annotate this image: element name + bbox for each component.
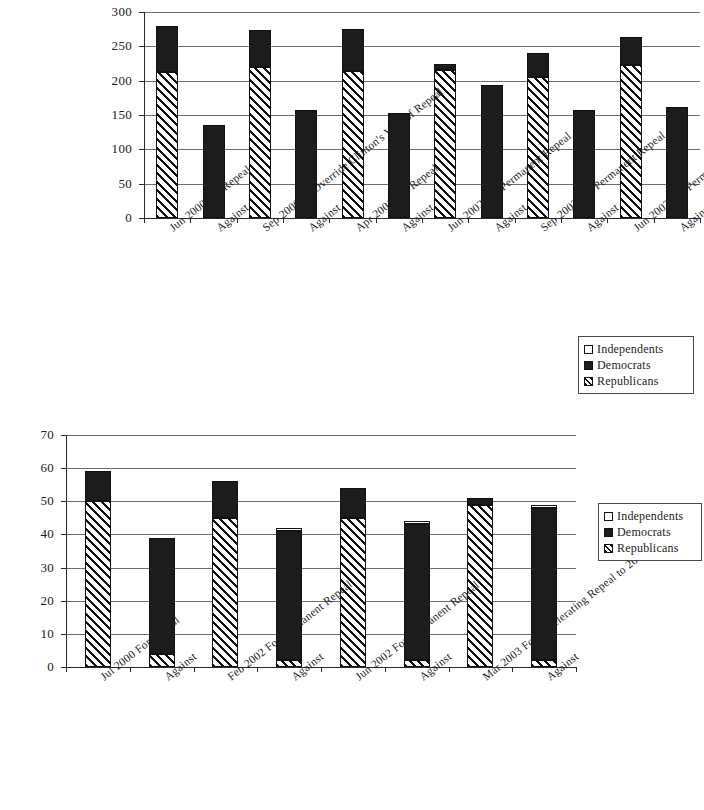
y-axis-line: [144, 12, 145, 218]
y-tick-label: 0: [98, 211, 132, 224]
x-tick-mark: [321, 667, 322, 672]
x-tick-mark: [66, 667, 67, 672]
y-tick-label: 60: [20, 461, 54, 474]
bar-segment-democrats: [249, 30, 271, 67]
bar-segment-republicans: [620, 65, 642, 218]
y-tick-label: 50: [98, 177, 132, 190]
y-tick-label: 200: [98, 74, 132, 87]
x-tick-mark: [512, 667, 513, 672]
y-tick-mark: [61, 568, 66, 569]
gridline: [144, 81, 700, 82]
legend-label: Democrats: [597, 359, 651, 372]
x-tick-label: Mar 2003 For Accelerating Repeal to 2009: [480, 673, 487, 682]
y-tick-mark: [139, 184, 144, 185]
x-tick-mark: [130, 667, 131, 672]
gridline: [144, 46, 700, 47]
bar-segment-democrats: [342, 29, 364, 71]
y-axis-line: [66, 435, 67, 667]
gridline: [144, 12, 700, 13]
bar: [149, 538, 175, 667]
x-tick-mark: [257, 667, 258, 672]
y-tick-mark: [139, 81, 144, 82]
x-tick-mark: [576, 667, 577, 672]
bar: [527, 53, 549, 218]
legend-item-independents: Independents: [584, 341, 687, 357]
y-tick-mark: [61, 435, 66, 436]
bar-segment-democrats: [85, 471, 111, 501]
x-tick-label: Sep 2002 For Permanent Repeal: [538, 224, 545, 233]
y-tick-label: 30: [20, 561, 54, 574]
bar: [85, 471, 111, 667]
x-tick-label: Against: [584, 224, 591, 233]
gridline: [66, 568, 576, 569]
x-tick-label: Against: [306, 224, 313, 233]
legend-label: Independents: [597, 343, 663, 356]
x-tick-label: Against: [399, 224, 406, 233]
bar-segment-republicans: [156, 72, 178, 218]
gridline: [66, 634, 576, 635]
bar: [340, 488, 366, 667]
y-tick-mark: [61, 501, 66, 502]
y-tick-label: 100: [98, 142, 132, 155]
x-tick-mark: [144, 218, 145, 223]
x-tick-label: Against: [162, 673, 169, 682]
x-tick-label: Against: [289, 673, 296, 682]
gridline: [144, 149, 700, 150]
chart-house-votes: 050100150200250300 Jun 2000 For RepealAg…: [0, 0, 704, 400]
y-tick-label: 70: [20, 428, 54, 441]
legend-label: Democrats: [617, 526, 671, 539]
gridline: [66, 534, 576, 535]
x-tick-mark: [449, 667, 450, 672]
x-tick-label: Sep 2000 To Override Clinton's Veto of R…: [260, 224, 267, 233]
x-tick-mark: [385, 667, 386, 672]
bar: [156, 26, 178, 218]
x-tick-label: Jun 2000 For Repeal: [167, 224, 174, 233]
bar-segment-democrats: [467, 498, 493, 505]
bar-segment-democrats: [434, 64, 456, 70]
bar-segment-republicans: [85, 501, 111, 667]
y-tick-label: 150: [98, 108, 132, 121]
y-tick-label: 40: [20, 527, 54, 540]
bar-segment-democrats: [212, 481, 238, 517]
x-tick-label: Against: [492, 224, 499, 233]
y-tick-mark: [139, 46, 144, 47]
legend-item-independents: Independents: [604, 508, 695, 524]
bar: [249, 30, 271, 218]
y-tick-label: 20: [20, 594, 54, 607]
legend-item-democrats: Democrats: [584, 357, 687, 373]
legend-chart2: IndependentsDemocratsRepublicans: [598, 503, 702, 561]
bar-segment-republicans: [249, 67, 271, 218]
y-tick-mark: [61, 601, 66, 602]
bar: [212, 481, 238, 667]
bar-segment-democrats: [340, 488, 366, 518]
legend-label: Republicans: [597, 375, 659, 388]
plot-area-chart2: [66, 435, 576, 667]
y-tick-label: 250: [98, 39, 132, 52]
bar: [276, 528, 302, 667]
legend-item-republicans: Republicans: [604, 540, 695, 556]
bar: [620, 37, 642, 218]
bar-segment-democrats: [620, 37, 642, 65]
gridline: [66, 501, 576, 502]
y-tick-mark: [139, 12, 144, 13]
x-tick-label: Jun 2002 For Permanent Repeal: [445, 224, 452, 233]
bar-segment-democrats: [527, 53, 549, 77]
legend-swatch-democrats-icon: [604, 528, 613, 537]
y-tick-mark: [61, 534, 66, 535]
x-tick-label: Against: [677, 224, 684, 233]
y-tick-mark: [61, 634, 66, 635]
x-tick-label: Feb 2002 For Permanent Repeal: [225, 673, 232, 682]
y-tick-label: 0: [20, 660, 54, 673]
y-tick-label: 300: [98, 5, 132, 18]
y-tick-mark: [61, 468, 66, 469]
legend-label: Independents: [617, 510, 683, 523]
bar-segment-independents: [404, 521, 430, 524]
legend-chart1: IndependentsDemocratsRepublicans: [578, 336, 694, 394]
chart-senate-votes: 010203040506070 Jul 2000 For RepealAgain…: [0, 415, 704, 810]
y-tick-mark: [139, 149, 144, 150]
x-tick-label: Against: [214, 224, 221, 233]
y-tick-label: 10: [20, 627, 54, 640]
gridline: [66, 468, 576, 469]
bar-segment-independents: [276, 528, 302, 531]
x-tick-label: Against: [544, 673, 551, 682]
